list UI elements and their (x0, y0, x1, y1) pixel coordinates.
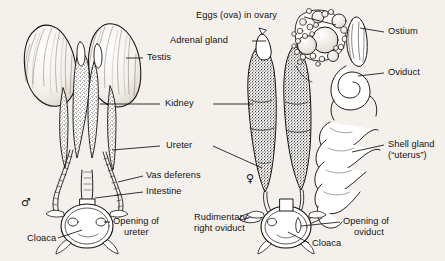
female-symbol: ♀ (246, 172, 254, 185)
label-eggs-in-ovary: Eggs (ova) in ovary (196, 10, 277, 20)
label-ostium: Ostium (388, 26, 418, 36)
label-cloaca-male: Cloaca (27, 233, 56, 243)
label-intestine: Intestine (146, 186, 182, 196)
ovum-medium (328, 51, 339, 62)
label-oviduct: Oviduct (388, 67, 420, 77)
label-rudimentary-oviduct: Rudimentary (194, 212, 247, 222)
opening-of-oviduct (296, 218, 301, 233)
intestine-female (280, 199, 293, 211)
label-opening-of-oviduct: Opening of (343, 216, 389, 226)
label-rudimentary-oviduct-2: right oviduct (194, 223, 245, 233)
label-shell-gland-2: (“uterus”) (388, 150, 427, 160)
ovum-large (298, 36, 317, 55)
label-opening-of-ureter-2: ureter (124, 227, 149, 237)
label-vas-deferens: Vas deferens (146, 170, 201, 180)
label-ureter: Ureter (166, 140, 192, 150)
ovum-medium (332, 14, 346, 28)
opening-of-ureter-left (68, 218, 78, 226)
label-cloaca-female: Cloaca (312, 238, 341, 248)
label-adrenal-gland: Adrenal gland (170, 35, 228, 45)
label-opening-of-oviduct-2: oviduct (354, 227, 384, 237)
label-testis: Testis (147, 52, 171, 62)
male-symbol: ♂ (21, 196, 31, 209)
label-kidney: Kidney (165, 98, 194, 108)
label-opening-of-ureter: Opening of (113, 216, 159, 226)
label-shell-gland: Shell gland (388, 139, 435, 149)
